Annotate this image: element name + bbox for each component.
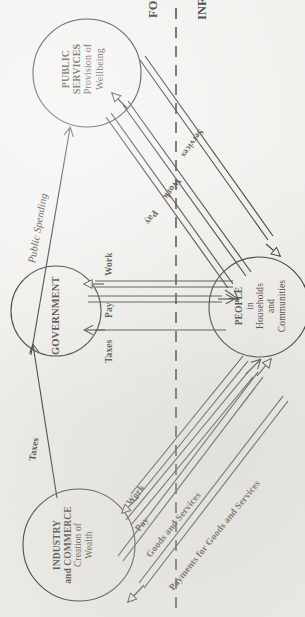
node-line: INDUSTRY: [52, 495, 63, 595]
node-line: in: [245, 260, 256, 352]
node-label-public-services: PUBLIC SERVICES Provision of Wellbeing: [60, 20, 105, 118]
divider-label-informal: INFORMAL: [195, 0, 209, 20]
node-label-people: PEOPLE in Households and Communities: [234, 260, 287, 352]
node-line: Provision of: [82, 20, 93, 118]
flow-ps-pay: [106, 113, 238, 299]
node-line: Creation of: [73, 495, 84, 595]
flow-label-gov-taxes: Taxes: [104, 340, 115, 363]
node-label-industry: INDUSTRY and COMMERCE Creation of Wealth: [52, 495, 95, 595]
node-line: Wellbeing: [94, 20, 105, 118]
node-line: PEOPLE: [234, 260, 245, 352]
divider-label-formal: FORMAL: [146, 0, 160, 18]
flow-gov-work: [84, 281, 233, 287]
node-line: Wealth: [84, 495, 95, 595]
node-line: Communities: [277, 260, 288, 352]
flow-taxes-industry: [33, 345, 57, 498]
node-line: and COMMERCE: [63, 495, 74, 595]
node-line: PUBLIC: [60, 20, 71, 118]
node-label-government: GOVERNMENT: [50, 276, 62, 355]
flow-ps-work: [112, 93, 251, 276]
node-line: SERVICES: [71, 20, 82, 118]
flow-label-gov-work: Work: [104, 252, 115, 276]
node-line: and: [266, 260, 277, 352]
node-line: Households: [255, 260, 266, 352]
diagram-canvas: FORMAL INFORMAL PUBLIC SERVICES Provisio…: [0, 0, 305, 617]
flow-label-gov-pay: Pay: [104, 302, 115, 318]
